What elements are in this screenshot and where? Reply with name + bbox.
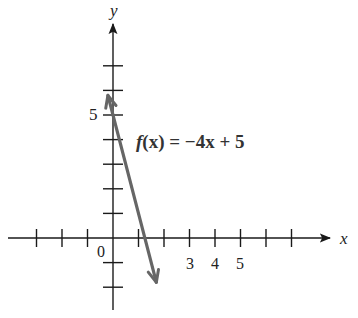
x-tick-label-5: 5: [236, 256, 244, 272]
y-axis-label: y: [110, 2, 118, 19]
function-equation-label: f(x) = −4x + 5: [136, 132, 244, 151]
x-axis-label: x: [340, 230, 348, 247]
y-tick-label-5: 5: [89, 106, 98, 123]
axes: [8, 24, 330, 310]
x-tick-label-3: 3: [186, 256, 194, 272]
x-tick-label-4: 4: [211, 256, 219, 272]
function-graph: [0, 0, 358, 318]
tick-marks: [37, 66, 292, 287]
function-expression: (x) = −4x + 5: [142, 131, 244, 152]
origin-label: 0: [97, 244, 105, 260]
